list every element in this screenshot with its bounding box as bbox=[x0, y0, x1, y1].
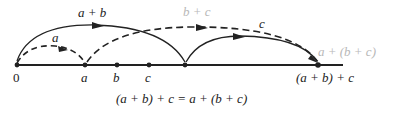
point-zero bbox=[15, 63, 20, 68]
point-end bbox=[315, 62, 321, 68]
point-label-zero: 0 bbox=[13, 70, 20, 85]
number-line-diagram: a + b a b + c c a + (b + c) 0 a b c (a +… bbox=[0, 0, 401, 114]
arc-label-a: a bbox=[52, 30, 59, 45]
arrow-head-c-icon bbox=[233, 33, 245, 40]
caption-equation: (a + b) + c = a + (b + c) bbox=[116, 91, 247, 106]
arc-c bbox=[186, 36, 317, 62]
point-b bbox=[115, 63, 120, 68]
arc-a-plus-b bbox=[17, 25, 185, 62]
arc-label-a-plus-b: a + b bbox=[78, 5, 107, 20]
arrow-head-b-plus-c-icon bbox=[196, 24, 208, 31]
point-label-c: c bbox=[145, 70, 151, 85]
right-label-a-plus-b-plus-c: a + (b + c) bbox=[318, 44, 376, 59]
arc-label-b-plus-c: b + c bbox=[183, 4, 211, 19]
point-label-a: a bbox=[81, 70, 88, 85]
point-a-plus-b bbox=[183, 63, 188, 68]
point-c bbox=[147, 63, 152, 68]
point-label-b: b bbox=[113, 70, 120, 85]
point-a bbox=[83, 63, 88, 68]
arrow-head-a-plus-b-icon bbox=[92, 22, 104, 29]
arc-label-c: c bbox=[259, 16, 265, 31]
arc-a bbox=[17, 46, 85, 63]
point-label-end: (a + b) + c bbox=[296, 70, 354, 85]
